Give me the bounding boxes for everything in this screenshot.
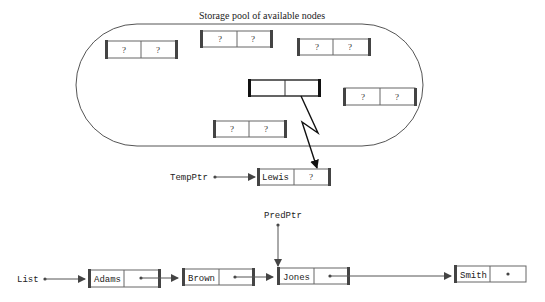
pool-node-next: ? [156, 45, 160, 55]
lewis-next: ? [309, 172, 313, 182]
pool-node-value: ? [361, 92, 365, 102]
pool-node-next: ? [395, 92, 399, 102]
node-value: Brown [188, 274, 215, 284]
pool-node: ? ? [297, 38, 371, 56]
pool-node: ? ? [213, 120, 287, 138]
allocated-node [248, 79, 321, 97]
null-pointer-dot [506, 272, 509, 275]
node-value: Adams [94, 275, 121, 285]
tempptr-label: TempPtr [170, 173, 208, 183]
pool-node-next: ? [264, 124, 268, 134]
pool-node: ? ? [105, 40, 178, 59]
node-value: Jones [283, 273, 310, 283]
lewis-node: Lewis ? [257, 168, 331, 186]
lewis-value: Lewis [262, 173, 289, 183]
pool-node-value: ? [315, 42, 319, 52]
pool-node-next: ? [348, 42, 352, 52]
pool-node-value: ? [230, 124, 234, 134]
pool-node: ? ? [343, 88, 417, 106]
pool-title: Storage pool of available nodes [199, 10, 325, 21]
allocation-arrow [301, 96, 318, 168]
list-label: List [17, 275, 39, 285]
pool-node-next: ? [251, 34, 255, 44]
node-value: Smith [460, 271, 487, 281]
pool-node-value: ? [122, 45, 126, 55]
pool-node-value: ? [218, 34, 222, 44]
pool-node: ? ? [200, 30, 273, 48]
list-node-smith: Smith [454, 265, 526, 283]
predptr-label: PredPtr [264, 211, 302, 221]
